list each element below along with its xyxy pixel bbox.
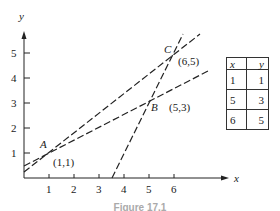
table-header-y: y [246, 58, 268, 70]
y-tick-label: 2 [11, 122, 17, 134]
point-a-label: A [39, 138, 47, 150]
table-cell: 5 [246, 110, 268, 130]
table-row: 1 1 [227, 70, 269, 90]
y-tick-label: 1 [11, 147, 17, 159]
table-cell: 6 [227, 110, 247, 130]
table-cell: 1 [246, 70, 268, 90]
x-tick-label: 3 [96, 183, 102, 195]
y-tick-label: 4 [11, 72, 17, 84]
point-c-coords: (6,5) [178, 55, 199, 68]
table-row: 6 5 [227, 110, 269, 130]
x-axis-label: x [233, 172, 239, 184]
x-ticks [49, 174, 174, 178]
point-c-label: C [164, 43, 172, 55]
values-table: x y 1 1 5 3 6 5 [226, 57, 269, 130]
x-tick-label: 4 [121, 183, 127, 195]
table-cell: 3 [246, 90, 268, 110]
table-cell: 5 [227, 90, 247, 110]
x-tick-label: 5 [146, 183, 152, 195]
y-tick-label: 5 [11, 47, 17, 59]
figure-caption: Figure 17.1 [0, 202, 280, 211]
y-axis-arrow-icon [22, 31, 27, 39]
y-tick-label: 3 [11, 97, 17, 109]
point-b-label: B [151, 101, 158, 113]
table-row: 5 3 [227, 90, 269, 110]
y-ticks [24, 53, 30, 153]
table-cell: 1 [227, 70, 247, 90]
x-tick-label: 2 [71, 183, 77, 195]
point-b-coords: (5,3) [169, 101, 190, 114]
table-header-x: x [227, 58, 247, 70]
x-axis-arrow-icon [221, 176, 229, 181]
x-tick-label: 6 [171, 183, 177, 195]
y-axis-label: y [18, 10, 24, 22]
x-tick-label: 1 [46, 183, 52, 195]
point-a-coords: (1,1) [53, 156, 74, 169]
line-ab [24, 70, 210, 166]
